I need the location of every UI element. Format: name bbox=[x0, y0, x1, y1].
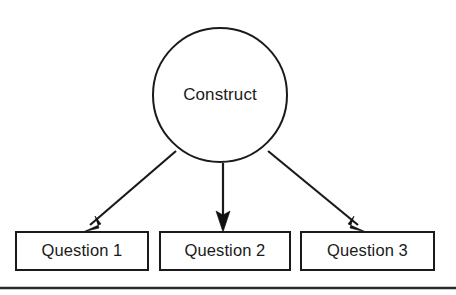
arrow-3-line bbox=[268, 151, 358, 225]
question-2-label: Question 2 bbox=[185, 241, 266, 259]
construct-node-label: Construct bbox=[183, 85, 257, 104]
question-node-2[interactable]: Question 2 bbox=[160, 232, 290, 270]
question-node-1[interactable]: Question 1 bbox=[16, 232, 148, 270]
arrow-construct-to-question-2 bbox=[216, 163, 230, 232]
arrow-1-line bbox=[90, 151, 176, 225]
arrow-construct-to-question-1 bbox=[83, 151, 176, 232]
construct-question-diagram: Construct Question 1 Question 2 Question… bbox=[0, 0, 456, 295]
question-1-label: Question 1 bbox=[42, 241, 123, 259]
diagram-canvas: Construct Question 1 Question 2 Question… bbox=[0, 0, 456, 295]
construct-node[interactable]: Construct bbox=[153, 28, 287, 162]
question-node-3[interactable]: Question 3 bbox=[301, 232, 434, 270]
question-3-label: Question 3 bbox=[327, 241, 408, 259]
arrow-construct-to-question-3 bbox=[268, 151, 366, 232]
